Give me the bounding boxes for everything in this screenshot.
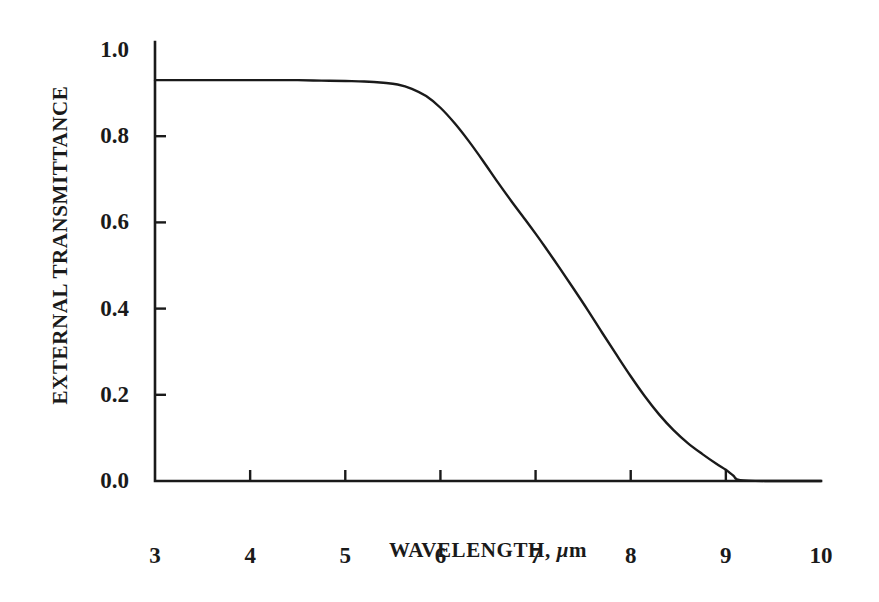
y-tick-label: 0.8: [69, 123, 129, 149]
axis-spines: [155, 42, 821, 481]
y-axis-ticks: [155, 136, 166, 395]
x-axis-unit: m: [569, 538, 587, 562]
transmittance-curve: [155, 80, 821, 481]
x-tick-label: 7: [506, 542, 566, 570]
transmittance-plot-svg: [155, 50, 821, 481]
x-tick-label: 4: [220, 542, 280, 570]
x-tick-label: 3: [125, 542, 185, 570]
x-tick-label: 9: [696, 542, 756, 570]
y-tick-label: 1.0: [69, 37, 129, 63]
x-tick-label: 6: [410, 542, 470, 570]
y-tick-label: 0.2: [69, 382, 129, 408]
x-axis-ticks: [250, 470, 726, 481]
chart-figure: EXTERNAL TRANSMITTANCE WAVELENGTH, μm 0.…: [0, 0, 879, 602]
x-tick-label: 5: [315, 542, 375, 570]
x-tick-label: 10: [791, 542, 851, 570]
y-tick-label: 0.6: [69, 209, 129, 235]
x-tick-label: 8: [601, 542, 661, 570]
y-tick-label: 0.0: [69, 468, 129, 494]
plot-area: 0.00.20.40.60.81.0 345678910: [155, 50, 821, 481]
y-tick-label: 0.4: [69, 296, 129, 322]
